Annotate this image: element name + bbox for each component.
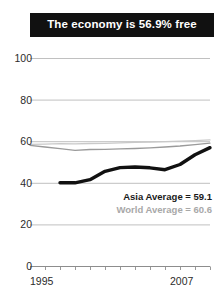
y-axis-label-40: 40 — [0, 178, 32, 189]
legend-item-world-average: World Average = 60.6 — [106, 203, 212, 216]
y-axis-label-80: 80 — [0, 95, 32, 106]
x-axis-label-start: 1995 — [30, 276, 53, 287]
y-axis-label-60: 60 — [0, 136, 32, 147]
chart-legend: Asia Average = 59.1 World Average = 60.6 — [106, 190, 212, 216]
y-axis-label-20: 20 — [0, 219, 32, 230]
plot-area: 100 80 60 40 20 0 1995 2007 — [0, 0, 214, 308]
y-axis-label-0: 0 — [0, 261, 32, 272]
legend-item-asia-average: Asia Average = 59.1 — [106, 190, 212, 203]
chart-canvas — [0, 0, 214, 308]
economic-freedom-chart: The economy is 56.9% free 100 80 60 40 2… — [0, 0, 214, 308]
x-axis-label-end: 2007 — [170, 276, 193, 287]
series-line-country — [60, 148, 210, 183]
y-axis-label-100: 100 — [0, 53, 32, 64]
